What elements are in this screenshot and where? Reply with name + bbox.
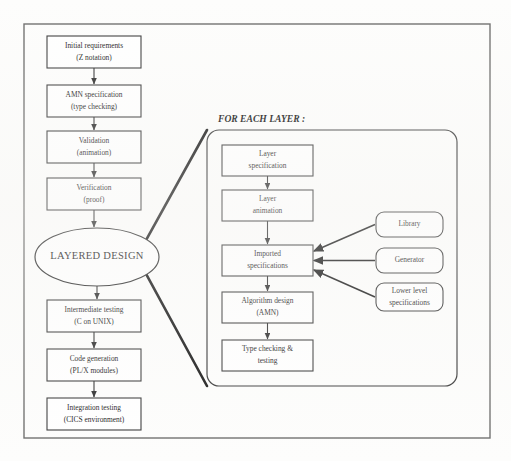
node-validation: Validation(animation) — [47, 131, 141, 163]
process-flow-diagram: FOR EACH LAYER : Initial requirements(Z … — [0, 0, 511, 461]
node-label-lower-level-specifications: Lower level — [392, 286, 428, 295]
node-label-initial-requirements: Initial requirements — [65, 41, 123, 50]
node-label2-validation: (animation) — [77, 148, 112, 157]
node-lower-level-specifications: Lower levelspecifications — [376, 283, 443, 311]
node-label-imported-specifications: Imported — [254, 249, 281, 258]
node-imported-specifications: Importedspecifications — [222, 245, 313, 276]
node-library: Library — [376, 212, 443, 237]
node-label-layer-animation: Layer — [259, 194, 277, 203]
node-label2-verification: (proof) — [84, 195, 105, 204]
node-label-library: Library — [398, 219, 420, 228]
diagram-page: FOR EACH LAYER : Initial requirements(Z … — [0, 0, 511, 461]
node-label-verification: Verification — [77, 183, 112, 192]
node-amn-specification: AMN specification(type checking) — [47, 85, 141, 117]
source-nodes-group: LibraryGeneratorLower levelspecification… — [376, 212, 443, 311]
node-label-algorithm-design: Algorithm design — [242, 296, 294, 305]
node-label-type-checking-testing: Type checking & — [242, 344, 293, 353]
node-label-generator: Generator — [395, 255, 425, 264]
node-layer-specification: Layerspecification — [222, 145, 313, 176]
node-code-generation: Code generation(PL/X modules) — [47, 349, 141, 381]
arrow-library-to-imported — [314, 225, 375, 252]
node-label-amn-specification: AMN specification — [66, 90, 123, 99]
node-intermediate-testing: Intermediate testing(C on UNIX) — [47, 300, 141, 332]
node-label-code-generation: Code generation — [70, 354, 119, 363]
node-label2-type-checking-testing: testing — [258, 356, 278, 365]
node-label2-imported-specifications: specifications — [247, 261, 288, 270]
for-each-layer-title: FOR EACH LAYER : — [217, 113, 305, 124]
node-label2-layer-specification: specification — [249, 161, 287, 170]
node-label-validation: Validation — [79, 136, 110, 145]
node-label2-intermediate-testing: (C on UNIX) — [74, 317, 114, 326]
node-label2-initial-requirements: (Z notation) — [76, 53, 112, 62]
layered-design-group: LAYERED DESIGN — [35, 228, 159, 286]
node-type-checking-testing: Type checking &testing — [222, 340, 313, 371]
node-label2-amn-specification: (type checking) — [71, 102, 118, 111]
node-integration-testing: Integration testing(CICS environment) — [47, 398, 141, 430]
node-algorithm-design: Algorithm design(AMN) — [222, 292, 313, 323]
node-label2-lower-level-specifications: specifications — [389, 298, 430, 307]
node-label-intermediate-testing: Intermediate testing — [65, 305, 124, 314]
node-initial-requirements: Initial requirements(Z notation) — [47, 36, 141, 68]
node-label-integration-testing: Integration testing — [67, 403, 121, 412]
node-label2-algorithm-design: (AMN) — [256, 308, 279, 317]
node-label2-code-generation: (PL/X modules) — [70, 366, 118, 375]
arrow-lower-level-specifications-to-imported — [314, 270, 375, 297]
node-verification: Verification(proof) — [47, 178, 141, 210]
node-label-layer-specification: Layer — [259, 149, 277, 158]
node-layer-animation: Layeranimation — [222, 190, 313, 221]
node-generator: Generator — [376, 248, 443, 273]
expansion-line-top — [147, 130, 207, 239]
expansion-line-bottom — [147, 275, 207, 386]
node-label2-integration-testing: (CICS environment) — [64, 415, 125, 424]
node-label-layered-design: LAYERED DESIGN — [50, 250, 143, 261]
node-label2-layer-animation: animation — [253, 206, 283, 215]
